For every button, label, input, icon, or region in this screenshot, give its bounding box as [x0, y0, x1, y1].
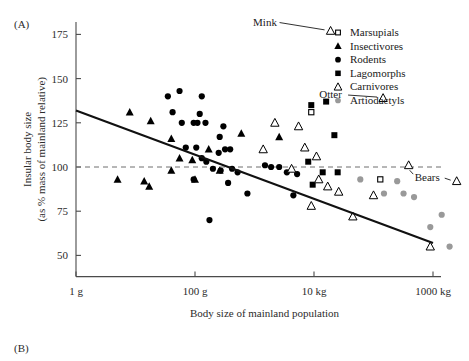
data-point: [165, 93, 171, 99]
x-axis-tick-label: 10 kg: [302, 285, 327, 297]
data-point: [210, 166, 216, 172]
data-point: [176, 154, 184, 161]
data-point: [225, 180, 231, 186]
data-point: [427, 224, 433, 230]
series-rodents: [165, 88, 300, 223]
data-series-group: [114, 26, 461, 250]
data-point: [400, 190, 406, 196]
data-point: [271, 118, 279, 126]
data-point: [218, 167, 224, 173]
data-point: [315, 175, 323, 183]
data-point: [259, 145, 267, 153]
legend-item-marsupials[interactable]: Marsupials: [336, 26, 399, 38]
data-point: [167, 135, 175, 142]
data-point: [404, 161, 412, 169]
annotation-label-mink: Mink: [253, 16, 277, 28]
data-point: [312, 152, 320, 160]
data-point: [275, 133, 283, 140]
annotation-leader-bears: [445, 178, 451, 180]
data-point: [188, 156, 196, 163]
data-point: [446, 243, 452, 249]
legend-item-carnivores[interactable]: Carnivores: [334, 80, 398, 92]
data-point: [114, 175, 122, 182]
data-point: [305, 159, 311, 165]
data-point: [169, 109, 175, 115]
data-point: [411, 194, 417, 200]
data-point: [227, 146, 233, 152]
legend-item-artiodactyls[interactable]: Artiodactyls: [335, 94, 404, 106]
x-axis-title: Body size of mainland population: [190, 307, 340, 319]
data-point: [199, 93, 205, 99]
y-axis-tick-label: 50: [57, 249, 69, 261]
data-point: [206, 217, 212, 223]
data-point: [244, 190, 250, 196]
x-axis-tick-label: 1 g: [69, 285, 83, 297]
data-point: [394, 178, 400, 184]
legend-item-insectivores[interactable]: Insectivores: [334, 40, 403, 52]
data-point: [331, 132, 337, 138]
data-point: [357, 176, 363, 182]
data-point: [194, 120, 200, 126]
data-point: [216, 150, 222, 156]
figure-panel-a: (A) (B) 50751001251501751 g100 g10 kg100…: [0, 0, 469, 361]
data-point: [147, 117, 155, 124]
data-point: [324, 182, 332, 190]
data-point: [335, 57, 341, 63]
data-point: [307, 201, 315, 209]
data-point: [381, 190, 387, 196]
data-point: [126, 108, 134, 115]
y-axis-title-line1: Insular body size: [21, 112, 33, 187]
data-point: [202, 120, 208, 126]
data-point: [140, 177, 148, 184]
annotation-leader-mink: [280, 23, 325, 30]
scatter-plot: 50751001251501751 g100 g10 kg1000 kgBody…: [0, 0, 469, 361]
data-point: [217, 134, 223, 140]
y-axis-tick-label: 125: [52, 117, 69, 129]
data-point: [335, 169, 341, 175]
legend-item-lagomorphs[interactable]: Lagomorphs: [335, 67, 405, 79]
data-point: [426, 242, 434, 250]
data-point: [308, 102, 314, 108]
x-axis-tick-label: 1000 kg: [415, 285, 451, 297]
y-axis-tick-label: 100: [52, 161, 69, 173]
data-point: [205, 145, 213, 152]
y-axis-tick-label: 175: [52, 28, 69, 40]
y-axis-title-line2: (as % mass of mainland relative): [35, 77, 48, 222]
data-point: [301, 143, 309, 151]
legend: MarsupialsInsectivoresRodentsLagomorphsC…: [334, 26, 405, 106]
legend-item-rodents[interactable]: Rodents: [335, 53, 386, 65]
data-point: [220, 123, 226, 129]
annotation-leader-bears-2: [410, 170, 414, 174]
data-point: [287, 164, 295, 172]
data-point: [335, 187, 343, 195]
legend-label: Carnivores: [350, 80, 398, 92]
data-point: [336, 30, 341, 35]
data-point: [179, 120, 185, 126]
data-point: [276, 164, 282, 170]
data-point: [176, 88, 182, 94]
legend-label: Rodents: [350, 53, 386, 65]
data-point: [197, 111, 203, 117]
data-point: [237, 129, 245, 136]
legend-label: Marsupials: [350, 26, 399, 38]
data-point: [334, 42, 341, 49]
data-point: [320, 169, 326, 175]
x-axis-tick-label: 100 g: [183, 285, 208, 297]
series-artiodactyls: [357, 176, 452, 249]
y-axis-tick-label: 150: [52, 73, 69, 85]
annotation-label-bears: Bears: [415, 171, 440, 183]
data-point: [378, 177, 383, 182]
data-point: [335, 71, 341, 77]
data-point: [309, 110, 314, 115]
data-point: [335, 98, 341, 104]
legend-label: Artiodactyls: [350, 94, 404, 106]
data-point: [369, 191, 377, 199]
data-point: [268, 164, 274, 170]
legend-label: Insectivores: [350, 40, 403, 52]
y-axis-tick-label: 75: [57, 205, 69, 217]
data-point: [452, 177, 460, 185]
data-point: [191, 176, 197, 182]
data-point: [439, 212, 445, 218]
data-point: [193, 144, 199, 150]
data-point: [334, 83, 342, 90]
